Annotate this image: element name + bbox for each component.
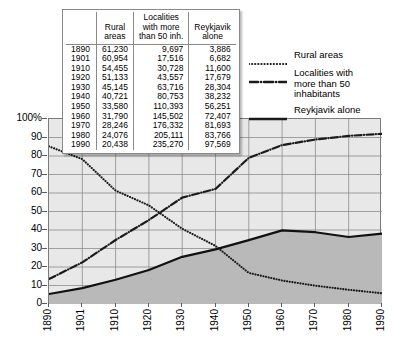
x-axis-tick-mark [348, 303, 349, 307]
legend-item: Reykjavik alone [249, 105, 393, 118]
y-axis-tick-label: 50 [31, 206, 42, 216]
y-axis-tick-label: 100% [16, 113, 42, 123]
legend-label: Rural areas [294, 50, 393, 61]
y-axis-tick-mark [42, 248, 47, 249]
table-header-row: RuralareasLocalitieswith morethan 50 inh… [66, 12, 236, 44]
table-cell: 1990 [66, 140, 96, 150]
y-axis-tick-mark [42, 137, 47, 138]
y-axis-tick-mark [42, 266, 47, 267]
x-axis-tick-mark [314, 303, 315, 307]
x-axis-tick-label: 1940 [210, 309, 220, 331]
x-axis-tick-label: 1990 [376, 309, 386, 331]
table-row: 199020,438235,27097,569 [66, 140, 236, 150]
y-axis-tick-label: 20 [31, 261, 42, 271]
x-axis-tick-label: 1980 [343, 309, 353, 331]
x-axis-tick-label: 1970 [309, 309, 319, 331]
y-axis-tick-label: 70 [31, 169, 42, 179]
x-axis-tick-mark [281, 303, 282, 307]
x-axis-tick-label: 1930 [176, 309, 186, 331]
y-axis-tick-label: 90 [31, 132, 42, 142]
y-axis-tick-mark [42, 174, 47, 175]
legend-label: Reykjavik alone [294, 105, 393, 116]
x-axis-tick-mark [148, 303, 149, 307]
legend-swatch-dotted-icon [249, 54, 287, 62]
y-axis-tick-label: 40 [31, 224, 42, 234]
y-axis-tick-mark [42, 285, 47, 286]
x-axis-tick-mark [115, 303, 116, 307]
x-axis-tick-label: 1890 [43, 309, 53, 331]
x-axis-tick-label: 1901 [76, 309, 86, 331]
y-axis-tick-mark [42, 155, 47, 156]
legend-swatch-dash-dot-icon [249, 72, 287, 80]
legend-item: Rural areas [249, 50, 393, 63]
y-axis-tick-mark [42, 192, 47, 193]
legend-label: Localities withmore than 50 inhabitants [294, 68, 393, 100]
table-body: 189061,2309,6973,886190160,95417,5166,68… [66, 44, 236, 150]
x-axis-tick-mark [181, 303, 182, 307]
table-cell: 20,438 [96, 140, 133, 150]
table-cell: 97,569 [189, 140, 236, 150]
data-table: RuralareasLocalitieswith morethan 50 inh… [66, 12, 236, 150]
y-axis-tick-mark [42, 229, 47, 230]
x-axis: 1890190119101920193019401950196019701980… [0, 303, 393, 355]
y-axis-tick-mark [42, 211, 47, 212]
x-axis-tick-mark [215, 303, 216, 307]
y-axis-tick-label: 80 [31, 150, 42, 160]
x-axis-tick-mark [248, 303, 249, 307]
table-column-header [66, 12, 96, 44]
x-axis-tick-mark [81, 303, 82, 307]
x-axis-tick-label: 1910 [110, 309, 120, 331]
table-column-header: Localitieswith morethan 50 inh. [133, 12, 188, 44]
table-cell: 235,270 [133, 140, 188, 150]
legend-swatch-solid-icon [249, 109, 287, 117]
table-column-header: Ruralareas [96, 12, 133, 44]
y-axis-tick-mark [42, 118, 47, 119]
x-axis-tick-label: 1950 [243, 309, 253, 331]
y-axis: 100%9080706050403020100 [0, 110, 46, 315]
chart-page: 100%9080706050403020100 1890190119101920… [0, 0, 393, 355]
table-column-header: Reykjavikalone [189, 12, 236, 44]
y-axis-tick-label: 60 [31, 187, 42, 197]
data-table-panel: RuralareasLocalitieswith morethan 50 inh… [62, 9, 240, 154]
x-axis-tick-mark [381, 303, 382, 307]
y-axis-tick-label: 30 [31, 243, 42, 253]
table-header: RuralareasLocalitieswith morethan 50 inh… [66, 12, 236, 44]
chart-legend: Rural areasLocalities withmore than 50 i… [249, 50, 393, 123]
legend-item: Localities withmore than 50 inhabitants [249, 68, 393, 100]
y-axis-tick-label: 10 [31, 280, 42, 290]
x-axis-tick-mark [48, 303, 49, 307]
x-axis-tick-label: 1960 [276, 309, 286, 331]
x-axis-tick-label: 1920 [143, 309, 153, 331]
